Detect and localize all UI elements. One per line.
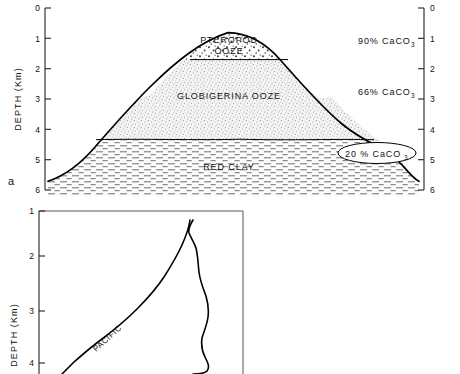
label-pteropod-ooze-line1: PTEROPOD xyxy=(200,35,258,45)
panel-a-right-ticks xyxy=(418,8,424,190)
panel-b-tick-labels: 1 2 3 4 xyxy=(29,206,34,368)
annotation-caco3-66: 66% CaCO 3 xyxy=(358,87,415,99)
panel-a-rtick-0: 0 xyxy=(430,3,435,13)
panel-a-ytick-3: 3 xyxy=(35,94,40,104)
panel-b-ytick-3: 3 xyxy=(29,306,34,316)
panel-a-ytick-0: 0 xyxy=(35,3,40,13)
panel-b-ytick-1: 1 xyxy=(29,206,34,216)
panel-b-ytick-2: 2 xyxy=(29,251,34,261)
panel-a-ytick-5: 5 xyxy=(35,155,40,165)
annotation-caco3-20: 20 % CaCO 3 xyxy=(338,143,416,164)
panel-a-right-tick-labels: 0 1 2 3 4 5 6 xyxy=(430,3,435,195)
annotation-caco3-90: 90% CaCO 3 xyxy=(358,36,415,48)
annotation-caco3-90-sub: 3 xyxy=(411,41,415,48)
panel-b-y-axis-title: DEPTH (Km) xyxy=(9,303,19,367)
panel-b-ytick-4: 4 xyxy=(29,358,34,368)
panel-a-ytick-1: 1 xyxy=(35,34,40,44)
panel-a-rtick-3: 3 xyxy=(430,94,435,104)
panel-a-y-axis-title: DEPTH (Km) xyxy=(13,67,23,131)
panel-a-left-tick-labels: 0 1 2 3 4 5 6 xyxy=(35,3,40,195)
annotation-caco3-20-sub: 3 xyxy=(404,154,408,161)
panel-b-frame xyxy=(39,211,243,374)
panel-label-a: a xyxy=(8,175,15,187)
panel-b: 1 2 3 4 DEPTH (Km) PACIFIC xyxy=(9,206,243,374)
panel-a-rtick-1: 1 xyxy=(430,34,435,44)
label-pteropod-ooze-line2: OOZE xyxy=(214,46,243,56)
annotation-caco3-66-sub: 3 xyxy=(411,92,415,99)
curve-pacific xyxy=(62,220,190,374)
panel-a-rtick-5: 5 xyxy=(430,155,435,165)
figure-svg: 0 1 2 3 4 5 6 DEPTH (Km) 0 1 2 3 4 5 6 xyxy=(0,0,460,374)
label-red-clay: RED CLAY xyxy=(203,162,255,172)
annotation-caco3-90-text: 90% CaCO xyxy=(358,36,411,46)
annotation-caco3-66-text: 66% CaCO xyxy=(358,87,411,97)
panel-a-rtick-2: 2 xyxy=(430,64,435,74)
panel-a-rtick-6: 6 xyxy=(430,185,435,195)
boundary-globigerina-redclay xyxy=(96,139,374,140)
figure-container: 0 1 2 3 4 5 6 DEPTH (Km) 0 1 2 3 4 5 6 xyxy=(0,0,460,374)
curve-unlabeled-right xyxy=(189,220,209,374)
curve-label-pacific: PACIFIC xyxy=(91,323,123,353)
panel-a-ytick-2: 2 xyxy=(35,64,40,74)
panel-a-ytick-4: 4 xyxy=(35,125,40,135)
panel-b-ticks xyxy=(39,211,45,363)
panel-a: 0 1 2 3 4 5 6 DEPTH (Km) 0 1 2 3 4 5 6 xyxy=(8,3,440,205)
panel-a-rtick-4: 4 xyxy=(430,125,435,135)
panel-a-ytick-6: 6 xyxy=(35,185,40,195)
annotation-caco3-20-text: 20 % CaCO xyxy=(345,149,401,159)
label-globigerina-ooze: GLOBIGERINA OOZE xyxy=(177,91,281,101)
panel-a-left-ticks xyxy=(45,8,51,190)
